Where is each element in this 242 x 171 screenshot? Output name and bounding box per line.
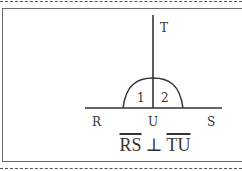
point-label-t: T [160, 21, 168, 35]
angle-label-2: 2 [161, 91, 169, 105]
perpendicular-statement: RS⊥TU [0, 134, 242, 156]
point-label-u: U [148, 115, 158, 129]
segment-rs-label: RS [120, 135, 142, 155]
bottom-dashed-divider [0, 168, 242, 169]
segment-tu-label: TU [166, 135, 190, 155]
point-label-s: S [207, 115, 215, 129]
perpendicular-symbol: ⊥ [146, 135, 163, 155]
angle-label-1: 1 [137, 91, 145, 105]
point-label-r: R [92, 115, 102, 129]
